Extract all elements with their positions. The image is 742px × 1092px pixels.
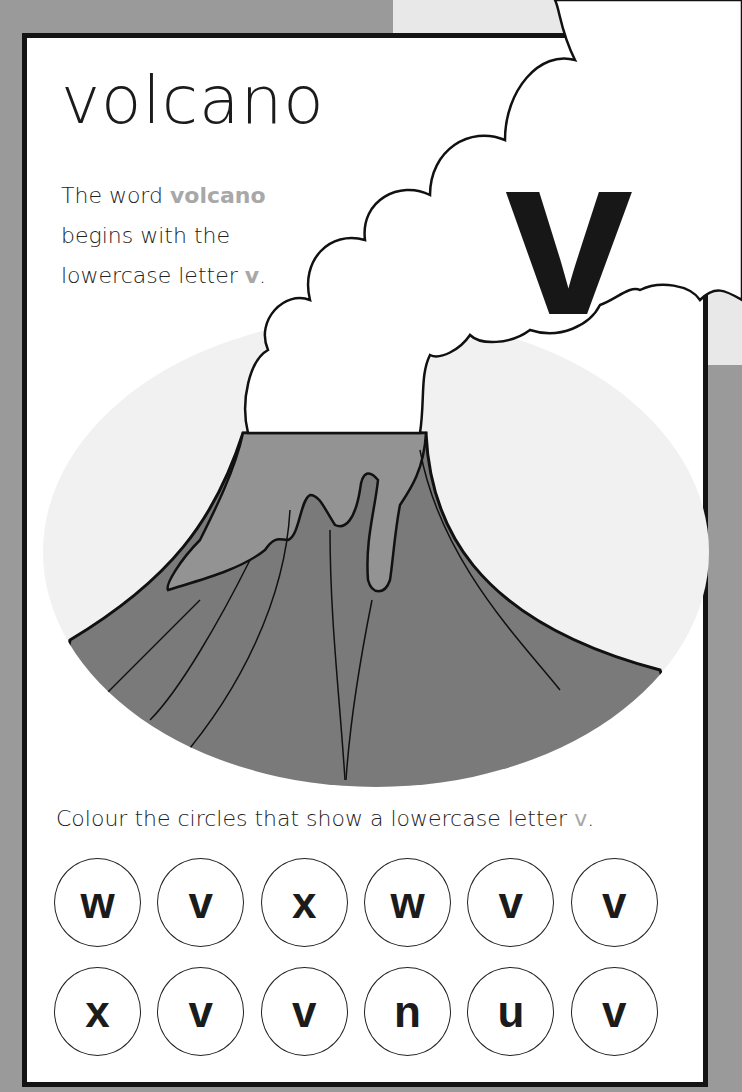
letter-circle[interactable]: v <box>571 967 658 1056</box>
letter-circle[interactable]: u <box>467 967 554 1056</box>
instruction-text: Colour the circles that show a lowercase… <box>56 806 594 831</box>
letter-circle-grid: w v x w v v x v v n u v <box>54 858 674 1056</box>
letter-circle[interactable]: v <box>467 858 554 947</box>
letter-circle[interactable]: v <box>157 858 244 947</box>
big-letter-v: v <box>505 120 633 350</box>
instruction-part: Colour the circles that show a lowercase… <box>56 806 574 831</box>
letter-circle[interactable]: x <box>54 967 141 1056</box>
letter-circle[interactable]: w <box>364 858 451 947</box>
highlight-letter: v <box>574 806 587 831</box>
letter-circle[interactable]: v <box>261 967 348 1056</box>
letter-circle[interactable]: x <box>261 858 348 947</box>
letter-circle[interactable]: w <box>54 858 141 947</box>
letter-circle[interactable]: n <box>364 967 451 1056</box>
instruction-part: . <box>587 806 594 831</box>
letter-circle[interactable]: v <box>157 967 244 1056</box>
letter-circle[interactable]: v <box>571 858 658 947</box>
